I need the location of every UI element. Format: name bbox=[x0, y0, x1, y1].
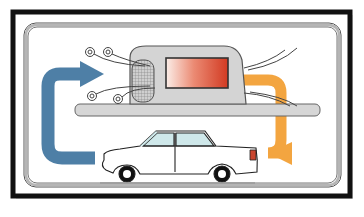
hvac-diagram bbox=[0, 0, 364, 217]
heater-core bbox=[166, 58, 228, 88]
tail-light bbox=[250, 150, 256, 160]
base-plate bbox=[75, 104, 320, 116]
hvac-unit bbox=[130, 46, 246, 104]
